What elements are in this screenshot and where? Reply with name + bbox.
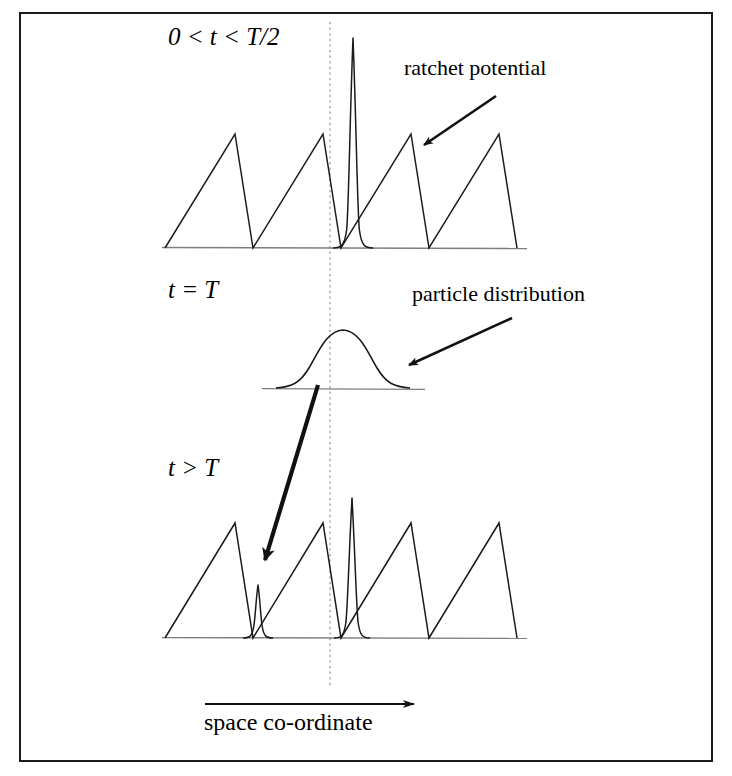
panel-bottom-time-label: t > T xyxy=(168,455,218,480)
ratchet-figure: 0 < t < T/2 t = T t > T ratchet potentia… xyxy=(0,0,732,776)
ratchet-potential-label: ratchet potential xyxy=(404,57,546,79)
panel-top-time-label: 0 < t < T/2 xyxy=(168,24,280,49)
particle-distribution-label: particle distribution xyxy=(412,283,585,305)
panel-middle-time-label: t = T xyxy=(168,277,218,302)
space-coordinate-caption: space co-ordinate xyxy=(204,710,373,734)
figure-border xyxy=(19,12,713,762)
